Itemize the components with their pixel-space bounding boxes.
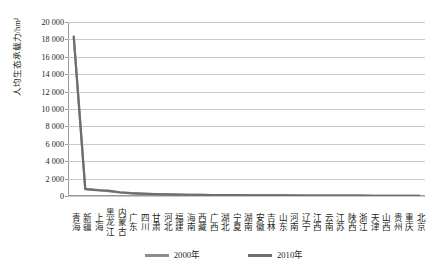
x-axis-tick-label: 安徽 xyxy=(252,200,264,244)
legend-label: 2000年 xyxy=(174,250,200,261)
chart-figure: 人均生态承载力/hm² 20 00018 00016 00014 00012 0… xyxy=(0,0,448,273)
y-axis-tick-label: 8 000 xyxy=(18,122,64,131)
x-axis-tick: 湖南 xyxy=(241,200,253,244)
x-axis-tick-label: 内蒙古 xyxy=(114,200,126,244)
x-axis-tick: 四川 xyxy=(137,200,149,244)
y-axis-tick-label: 2 000 xyxy=(18,174,64,183)
legend-label: 2010年 xyxy=(277,250,303,261)
x-axis-tick-label: 北京 xyxy=(413,200,425,244)
legend-line-swatch xyxy=(248,254,272,256)
y-axis-tick-label: 0 xyxy=(18,192,64,201)
x-axis-tick-label: 河北 xyxy=(160,200,172,244)
x-axis-tick-label: 广东 xyxy=(126,200,138,244)
x-axis-tick: 河北 xyxy=(160,200,172,244)
x-axis-tick: 山东 xyxy=(275,200,287,244)
x-axis-tick: 北京 xyxy=(413,200,425,244)
x-axis-tick: 内蒙古 xyxy=(114,200,126,244)
x-axis-tick: 辽宁 xyxy=(298,200,310,244)
x-axis-tick: 山西 xyxy=(379,200,391,244)
x-axis-tick: 新疆 xyxy=(80,200,92,244)
x-axis-tick: 湖北 xyxy=(218,200,230,244)
gridline xyxy=(68,196,425,197)
x-axis-tick-label: 山东 xyxy=(275,200,287,244)
x-axis-tick-label: 贵州 xyxy=(390,200,402,244)
x-axis-labels: 青海新疆上海黑龙江内蒙古广东四川甘肃河北福建海南西藏广西湖北宁夏湖南安徽吉林山东… xyxy=(68,200,425,246)
x-axis-tick: 福建 xyxy=(172,200,184,244)
x-axis-tick-label: 广西 xyxy=(206,200,218,244)
x-axis-tick: 江西 xyxy=(310,200,322,244)
y-axis-tick-label: 14 000 xyxy=(18,70,64,79)
x-axis-tick-label: 重庆 xyxy=(402,200,414,244)
legend-line-swatch xyxy=(145,254,169,256)
series-line-2010年 xyxy=(74,37,419,196)
legend-item[interactable]: 2000年 xyxy=(145,250,200,261)
x-axis-tick-label: 青海 xyxy=(68,200,80,244)
x-axis-tick-label: 四川 xyxy=(137,200,149,244)
x-axis-tick: 上海 xyxy=(91,200,103,244)
x-axis-tick-label: 湖北 xyxy=(218,200,230,244)
x-axis-tick: 宁夏 xyxy=(229,200,241,244)
y-axis-tick-label: 18 000 xyxy=(18,35,64,44)
x-axis-tick-label: 福建 xyxy=(172,200,184,244)
x-axis-tick: 重庆 xyxy=(402,200,414,244)
x-axis-tick: 广西 xyxy=(206,200,218,244)
y-axis-tick-label: 12 000 xyxy=(18,87,64,96)
x-axis-tick-label: 宁夏 xyxy=(229,200,241,244)
x-axis-tick-label: 上海 xyxy=(91,200,103,244)
x-axis-tick: 陕西 xyxy=(344,200,356,244)
x-axis-tick-label: 吉林 xyxy=(264,200,276,244)
chart-legend: 2000年2010年 xyxy=(0,250,448,261)
x-axis-tick-label: 江西 xyxy=(310,200,322,244)
y-axis-tick-label: 20 000 xyxy=(18,18,64,27)
y-axis-tick-label: 16 000 xyxy=(18,52,64,61)
x-axis-tick-label: 陕西 xyxy=(344,200,356,244)
x-axis-tick: 青海 xyxy=(68,200,80,244)
legend-item[interactable]: 2010年 xyxy=(248,250,303,261)
x-axis-tick-label: 云南 xyxy=(321,200,333,244)
x-axis-tick-label: 山西 xyxy=(379,200,391,244)
x-axis-tick-label: 黑龙江 xyxy=(103,200,115,244)
x-axis-tick: 江苏 xyxy=(333,200,345,244)
x-axis-tick: 广东 xyxy=(126,200,138,244)
x-axis-tick-label: 海南 xyxy=(183,200,195,244)
x-axis-tick-label: 河南 xyxy=(287,200,299,244)
x-axis-tick-label: 天津 xyxy=(367,200,379,244)
x-axis-tick: 贵州 xyxy=(390,200,402,244)
x-axis-tick: 西藏 xyxy=(195,200,207,244)
x-axis-tick-label: 西藏 xyxy=(195,200,207,244)
x-axis-tick-label: 新疆 xyxy=(80,200,92,244)
x-axis-tick-label: 浙江 xyxy=(356,200,368,244)
x-axis-tick: 河南 xyxy=(287,200,299,244)
plot-area: 20 00018 00016 00014 00012 00010 0008 00… xyxy=(68,22,425,196)
x-axis-tick: 天津 xyxy=(367,200,379,244)
y-axis-tick-label: 10 000 xyxy=(18,105,64,114)
x-axis-tick-label: 甘肃 xyxy=(149,200,161,244)
x-axis-tick: 浙江 xyxy=(356,200,368,244)
x-axis-tick-label: 江苏 xyxy=(333,200,345,244)
x-axis-tick-label: 湖南 xyxy=(241,200,253,244)
x-axis-tick: 黑龙江 xyxy=(103,200,115,244)
x-axis-tick: 海南 xyxy=(183,200,195,244)
y-axis-tick-mark xyxy=(65,196,68,197)
x-axis-tick: 甘肃 xyxy=(149,200,161,244)
y-axis-tick-label: 4 000 xyxy=(18,157,64,166)
series-lines xyxy=(68,22,425,196)
x-axis-tick: 吉林 xyxy=(264,200,276,244)
x-axis-tick: 安徽 xyxy=(252,200,264,244)
series-line-2000年 xyxy=(74,36,419,196)
x-axis-tick: 云南 xyxy=(321,200,333,244)
x-axis-tick-label: 辽宁 xyxy=(298,200,310,244)
y-axis-tick-label: 6 000 xyxy=(18,139,64,148)
